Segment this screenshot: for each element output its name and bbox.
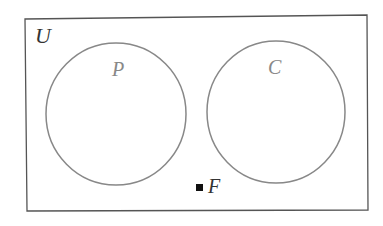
universe-label: U xyxy=(35,23,53,48)
point-f-label: F xyxy=(207,175,221,197)
venn-diagram: U P C F xyxy=(0,0,383,226)
universe-rect xyxy=(25,15,368,211)
set-p-label: P xyxy=(111,58,124,80)
set-c-label: C xyxy=(268,56,282,78)
point-f-marker xyxy=(196,184,203,191)
